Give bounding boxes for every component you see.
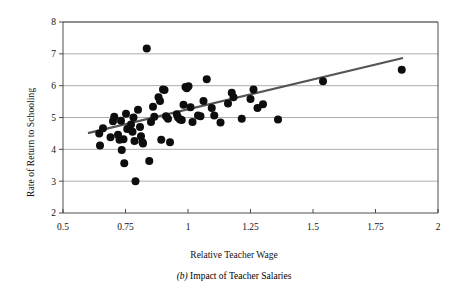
data-point-49 [200,97,208,105]
data-point-30 [156,97,164,105]
caption-label: (b) [177,271,188,281]
x-tick-label-1.25: 1.25 [242,222,259,232]
y-tick-label-6: 6 [51,81,56,91]
x-axis-title: Relative Teacher Wage [0,250,468,260]
data-point-12 [122,110,130,118]
data-point-56 [230,93,238,101]
data-point-40 [178,116,186,124]
data-point-14 [127,121,135,129]
y-tick-label-3: 3 [51,177,56,187]
data-point-46 [189,118,197,126]
data-point-51 [208,104,216,112]
data-point-28 [150,113,158,121]
y-tick-group: 2345678 [51,17,63,218]
data-point-25 [145,157,153,165]
data-point-15 [129,128,137,136]
data-point-10 [120,135,128,143]
x-tick-group: 0.50.7511.251.51.752 [57,209,441,232]
y-tick-label-2: 2 [51,208,56,218]
data-point-23 [139,140,147,148]
data-point-16 [130,114,138,122]
data-point-63 [319,77,327,85]
data-point-44 [185,82,193,90]
y-tick-label-4: 4 [51,145,56,155]
data-point-59 [250,85,258,93]
data-point-2 [99,124,107,132]
caption-text: Impact of Teacher Salaries [188,271,292,281]
data-point-50 [203,75,211,83]
y-tick-label-5: 5 [51,113,56,123]
data-point-24 [143,44,151,52]
trend-line-segment [88,58,403,133]
y-axis-title: Rate of Return to Schooling [26,88,36,197]
data-point-9 [118,146,126,154]
x-tick-label-1.5: 1.5 [307,222,319,232]
data-point-8 [117,117,125,125]
data-point-group [95,44,406,185]
trend-line [88,58,403,133]
data-point-1 [96,142,104,150]
data-point-48 [197,112,205,120]
data-point-17 [131,137,139,145]
data-point-5 [110,113,118,121]
x-tick-label-1: 1 [186,222,191,232]
data-point-20 [136,123,144,131]
data-point-53 [217,119,225,127]
y-tick-label-7: 7 [51,49,56,59]
figure-caption: (b) Impact of Teacher Salaries [0,271,468,281]
x-tick-label-0.75: 0.75 [117,222,134,232]
x-tick-label-2: 2 [436,222,441,232]
y-tick-label-8: 8 [51,17,56,27]
x-tick-label-1.75: 1.75 [367,222,384,232]
data-point-54 [224,99,232,107]
data-point-36 [166,138,174,146]
data-point-45 [187,103,195,111]
data-point-61 [259,100,267,108]
data-point-19 [134,106,142,114]
data-point-52 [210,112,218,120]
data-point-3 [107,133,115,141]
data-point-11 [120,159,128,167]
data-point-31 [157,136,165,144]
x-tick-label-0.5: 0.5 [57,222,69,232]
data-point-64 [398,66,406,74]
data-point-41 [180,101,188,109]
figure-container: 2345678 0.50.7511.251.51.752 Rate of Ret… [0,0,468,294]
data-point-33 [161,86,169,94]
data-point-58 [247,95,255,103]
data-point-35 [164,115,172,123]
data-point-62 [274,115,282,123]
data-point-18 [132,177,140,185]
data-point-57 [238,115,246,123]
data-point-27 [149,103,157,111]
